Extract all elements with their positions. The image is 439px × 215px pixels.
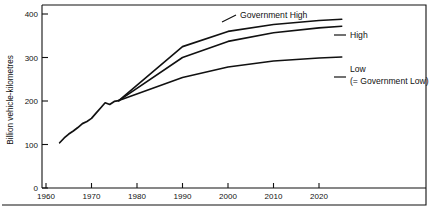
annotation-government-high: Government High [240, 10, 308, 20]
series-line-high [119, 26, 342, 100]
line-chart: 400 300 200 100 0 1960 1970 1980 1990 20… [0, 0, 439, 215]
annotation-high: High [350, 30, 368, 40]
y-tick-label-100: 100 [25, 141, 39, 150]
x-tick-label-1970: 1970 [83, 192, 101, 201]
y-tick-marks [42, 14, 48, 188]
y-tick-label-300: 300 [25, 54, 39, 63]
series-line-historical [60, 101, 119, 143]
x-tick-label-2010: 2010 [265, 192, 283, 201]
x-tick-label-1980: 1980 [128, 192, 146, 201]
annotation-low-sublabel: (= Government Low) [350, 76, 429, 86]
x-tick-label-1990: 1990 [174, 192, 192, 201]
y-axis-title: Billion vehicle-kilometres [6, 55, 15, 145]
leader-line-government-high [222, 15, 236, 22]
y-tick-label-400: 400 [25, 10, 39, 19]
annotation-low: Low [350, 64, 367, 74]
x-tick-label-1960: 1960 [37, 192, 55, 201]
y-tick-label-200: 200 [25, 97, 39, 106]
chart-figure: 400 300 200 100 0 1960 1970 1980 1990 20… [0, 0, 439, 215]
x-tick-label-2020: 2020 [310, 192, 328, 201]
x-tick-label-2000: 2000 [219, 192, 237, 201]
x-tick-marks [46, 183, 319, 188]
